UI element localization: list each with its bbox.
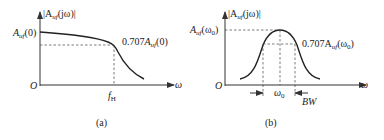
origin-label-b: O (215, 80, 222, 91)
fh-tick-label: fH (108, 90, 116, 103)
bandwidth-label: BW (302, 96, 318, 107)
cutoff-gain-annotation-a: 0.707Auf(0) (122, 36, 168, 49)
y-axis-label-a: |Auf(jω)| (43, 8, 76, 21)
x-axis-label-b: ω (361, 79, 368, 90)
frequency-response-diagram: |Auf(jω)| Auf(0) 0.707Auf(0) O ω fH (a) … (0, 0, 384, 140)
panel-b-bandpass: |Auf(jω)| Auf(ω0) 0.707Auf(ω0) O ω ω0 BW… (189, 8, 368, 129)
y-axis-label-b: |Auf(jω)| (228, 8, 261, 21)
panel-a-lowpass: |Auf(jω)| Auf(0) 0.707Auf(0) O ω fH (a) (12, 8, 182, 129)
center-frequency-label: ω0 (274, 87, 285, 100)
caption-a: (a) (96, 117, 107, 129)
caption-b: (b) (265, 117, 277, 129)
half-power-annotation-b: 0.707Auf(ω0) (302, 38, 354, 51)
peak-gain-label-b: Auf(ω0) (189, 24, 218, 37)
passband-gain-label-a: Auf(0) (12, 27, 36, 40)
origin-label-a: O (30, 80, 37, 91)
x-axis-label-a: ω (175, 79, 182, 90)
